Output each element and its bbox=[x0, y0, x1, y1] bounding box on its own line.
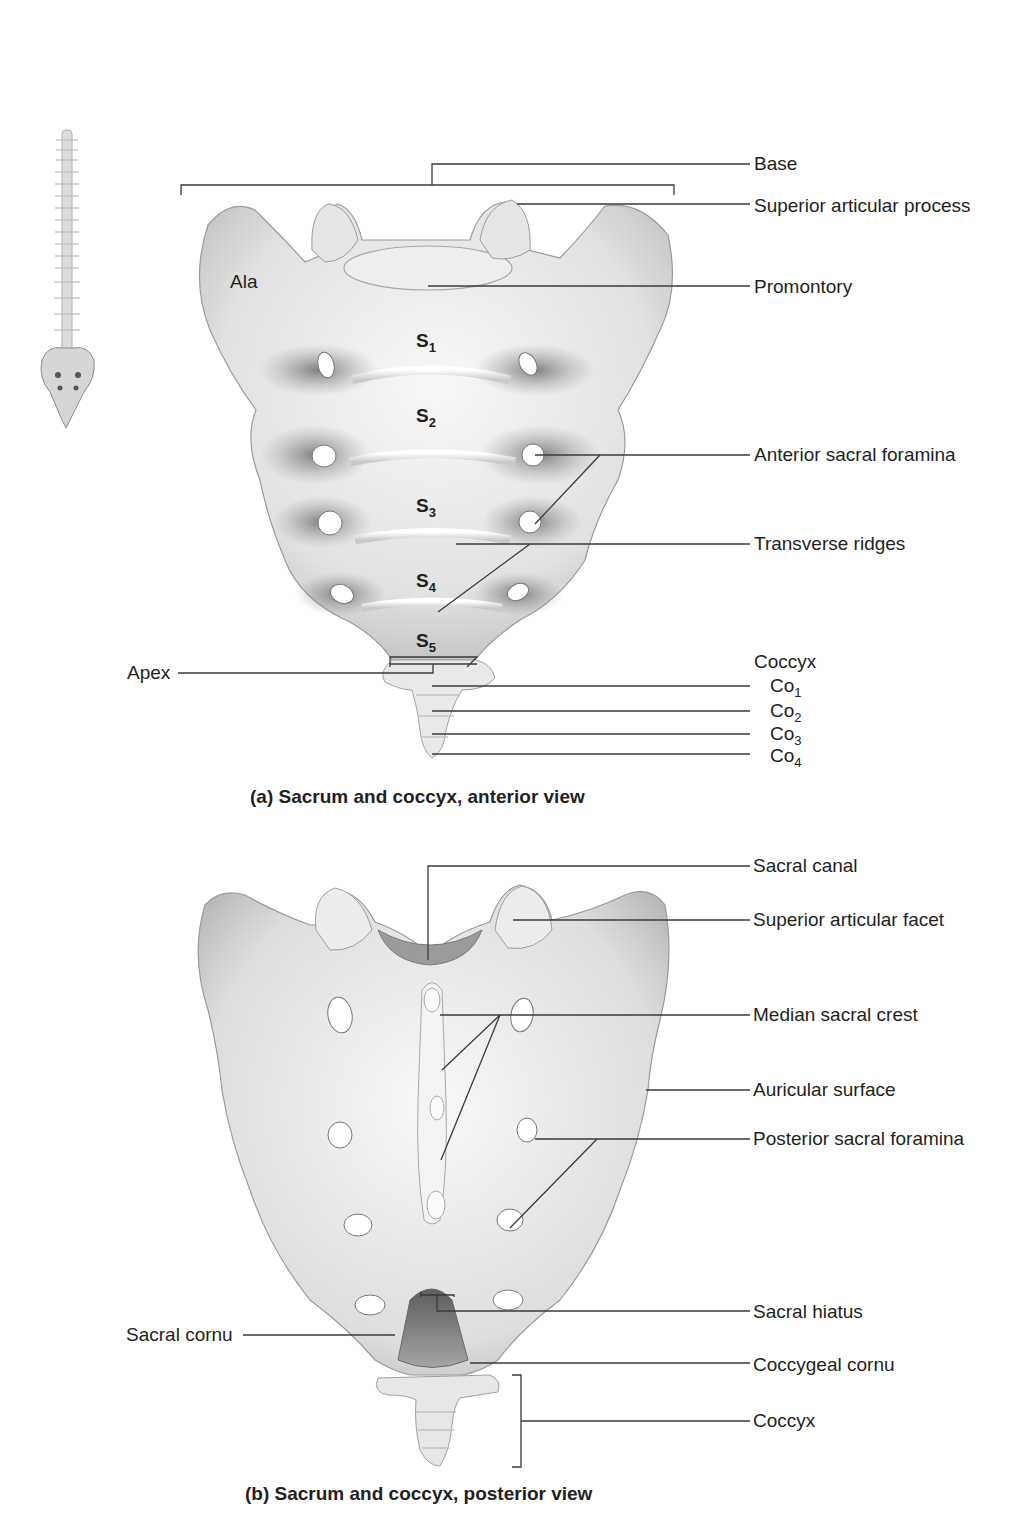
label-sacral-canal: Sacral canal bbox=[753, 855, 858, 877]
label-apex: Apex bbox=[127, 662, 170, 684]
segment-label-s3: S3 bbox=[416, 495, 436, 517]
label-posterior-sacral-foramina: Posterior sacral foramina bbox=[753, 1128, 964, 1150]
label-coccyx: Coccyx bbox=[753, 1410, 815, 1432]
label-auricular-surface: Auricular surface bbox=[753, 1079, 896, 1101]
label-co2: Co2 bbox=[770, 700, 802, 722]
label-median-sacral-crest: Median sacral crest bbox=[753, 1004, 918, 1026]
label-co4: Co4 bbox=[770, 745, 802, 767]
segment-label-s5: S5 bbox=[416, 630, 436, 652]
label-co1: Co1 bbox=[770, 675, 802, 697]
spine-thumbnail-icon bbox=[41, 130, 94, 428]
caption-figure-a: (a) Sacrum and coccyx, anterior view bbox=[250, 786, 585, 808]
label-sacral-hiatus: Sacral hiatus bbox=[753, 1301, 863, 1323]
caption-figure-b: (b) Sacrum and coccyx, posterior view bbox=[245, 1483, 592, 1505]
segment-label-s4: S4 bbox=[416, 570, 436, 592]
diagram-canvas bbox=[0, 0, 1020, 1525]
sacrum-anterior-illustration bbox=[199, 200, 672, 758]
label-coccygeal-cornu: Coccygeal cornu bbox=[753, 1354, 895, 1376]
label-superior-articular-facet: Superior articular facet bbox=[753, 909, 944, 931]
label-promontory: Promontory bbox=[754, 276, 852, 298]
segment-label-s2: S2 bbox=[416, 405, 436, 427]
label-co3: Co3 bbox=[770, 723, 802, 745]
sacrum-posterior-illustration bbox=[198, 885, 669, 1466]
label-sacral-cornu: Sacral cornu bbox=[126, 1324, 233, 1346]
label-coccyx-heading: Coccyx bbox=[754, 651, 816, 673]
label-anterior-sacral-foramina: Anterior sacral foramina bbox=[754, 444, 956, 466]
label-superior-articular-process: Superior articular process bbox=[754, 195, 970, 217]
label-ala: Ala bbox=[230, 271, 257, 293]
segment-label-s1: S1 bbox=[416, 330, 436, 352]
label-base: Base bbox=[754, 153, 797, 175]
label-transverse-ridges: Transverse ridges bbox=[754, 533, 905, 555]
